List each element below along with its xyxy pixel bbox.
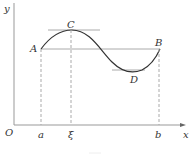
a-label: a — [38, 129, 44, 140]
point-C-label: C — [67, 19, 75, 30]
point-D-label: D — [129, 74, 138, 85]
x-label: x — [183, 129, 189, 140]
point-A-label: A — [29, 43, 37, 54]
point-B-label: B — [154, 37, 162, 48]
curve — [41, 30, 160, 72]
x-axis-arrow-icon — [180, 123, 186, 127]
rolle-theorem-diagram: y x O a ξ b A B C D — [0, 0, 195, 156]
xi-label: ξ — [68, 129, 74, 140]
y-label: y — [3, 3, 10, 14]
origin-label: O — [5, 127, 13, 138]
b-label: b — [155, 129, 161, 140]
